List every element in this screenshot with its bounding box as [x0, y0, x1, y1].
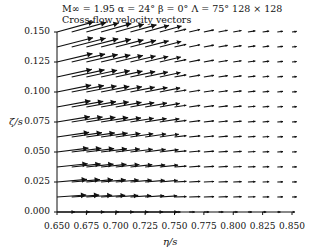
- velocity-vectors: [57, 20, 297, 213]
- vector-field-plot: [0, 0, 311, 251]
